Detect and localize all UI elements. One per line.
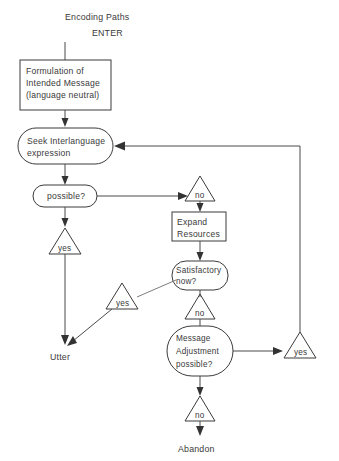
edge-adjustment-to-yes: [233, 347, 283, 355]
expand-line-2: Resources: [177, 229, 220, 239]
decision-triangle-possible-yes: yes: [49, 228, 81, 254]
satisfactory-yes-label: yes: [116, 299, 129, 308]
adjustment-line-1: Message: [176, 334, 211, 343]
adjustment-line-2: Adjustment: [176, 347, 219, 356]
edge-possible-to-yes: [62, 207, 69, 227]
decision-triangle-satisfactory-no: no: [185, 294, 215, 319]
node-satisfactory: Satisfactory now?: [172, 261, 228, 290]
edge-seek-to-possible: [62, 164, 69, 185]
formulation-line-3: (language neutral): [26, 90, 99, 100]
possible-no-label: no: [195, 191, 205, 200]
formulation-line-2: Intended Message: [26, 78, 100, 88]
edge-no-to-expand: [197, 201, 204, 212]
decision-triangle-possible-no: no: [185, 176, 215, 201]
formulation-line-1: Formulation of: [26, 66, 84, 76]
edge-adjustment-to-no: [197, 376, 204, 396]
node-utter: Utter: [50, 352, 70, 362]
edge-expand-to-satisfactory: [197, 241, 204, 261]
node-abandon: Abandon: [178, 444, 215, 454]
adjustment-line-3: possible?: [176, 360, 213, 369]
node-expand-resources: Expand Resources: [172, 212, 226, 241]
adjustment-no-label: no: [195, 411, 205, 420]
edge-possible-to-no: [97, 192, 188, 200]
seek-line-1: Seek Interlanguage: [27, 136, 105, 146]
edge-no-to-abandon: [196, 421, 204, 436]
node-message-adjustment: Message Adjustment possible?: [167, 326, 233, 376]
satisfactory-no-label: no: [195, 309, 205, 318]
seek-line-2: expression: [27, 148, 71, 158]
decision-triangle-satisfactory-yes: yes: [106, 283, 138, 309]
adjustment-yes-label: yes: [294, 348, 307, 357]
satisfactory-line-2: now?: [176, 277, 197, 286]
decision-triangle-adjustment-yes: yes: [284, 332, 316, 358]
diagram-title: Encoding Paths: [65, 12, 130, 22]
satisfactory-line-1: Satisfactory: [176, 266, 222, 275]
decision-triangle-adjustment-no: no: [185, 396, 215, 421]
possible-yes-label: yes: [58, 244, 71, 253]
node-seek-interlanguage: Seek Interlanguage expression: [18, 128, 113, 164]
edge-formulation-to-seek: [62, 110, 69, 127]
edge-possible-yes-to-utter: [61, 254, 69, 345]
edge-satisfactory-to-yes: [137, 280, 176, 297]
edge-satisfactory-yes-to-utter: [67, 309, 112, 346]
node-formulation: Formulation of Intended Message (languag…: [20, 60, 111, 110]
node-possible: possible?: [33, 185, 97, 207]
flowchart-svg: Encoding Paths ENTER Formulation of Inte…: [0, 0, 339, 461]
flowchart-canvas: Encoding Paths ENTER Formulation of Inte…: [0, 0, 339, 461]
enter-label: ENTER: [92, 28, 123, 38]
expand-line-1: Expand: [177, 217, 207, 227]
possible-label: possible?: [47, 191, 85, 201]
